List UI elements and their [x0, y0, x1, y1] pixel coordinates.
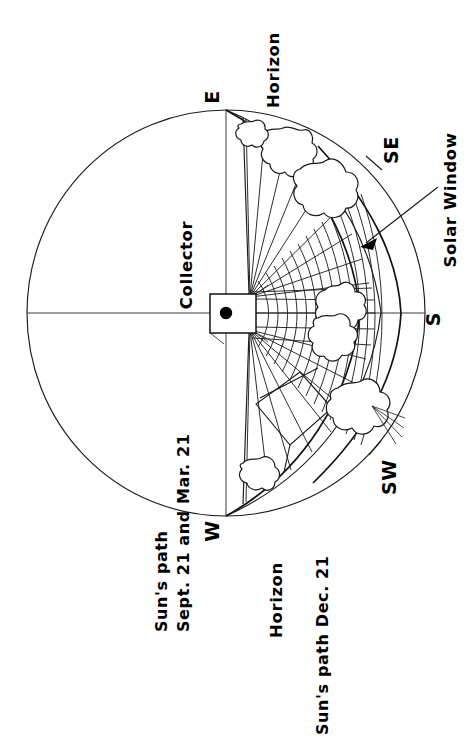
compass-label-southwest: SW [378, 459, 400, 495]
horizon-label-east: Horizon [264, 32, 283, 108]
collector-label: Collector [177, 220, 196, 309]
sun-path-equinox-label-line1: Sun's path [152, 530, 171, 632]
tree-foliage-sw [326, 379, 390, 434]
shrub-foliage-south-2 [308, 314, 357, 361]
diagram-canvas: E W S SE SW Collector Solar Window Horiz… [0, 0, 476, 755]
collector-center-dot [220, 307, 232, 319]
compass-label-southeast: SE [380, 136, 402, 164]
shrub-foliage-west [240, 457, 280, 491]
collector-box [210, 294, 256, 333]
sun-path-december-label: Sun's path Dec. 21 [313, 556, 332, 736]
southwest-tick-mark [369, 441, 381, 455]
horizon-label-west: Horizon [267, 562, 286, 638]
compass-label-west: W [201, 520, 223, 542]
compass-label-east: E [201, 90, 223, 104]
sun-path-diagram: E W S SE SW Collector Solar Window Horiz… [0, 0, 476, 755]
solar-window-label: Solar Window [441, 132, 460, 267]
shrub-foliage-east [236, 120, 268, 147]
compass-label-south: S [422, 312, 444, 326]
sun-path-equinox-label-line2: Sept. 21 and Mar. 21 [174, 434, 193, 632]
